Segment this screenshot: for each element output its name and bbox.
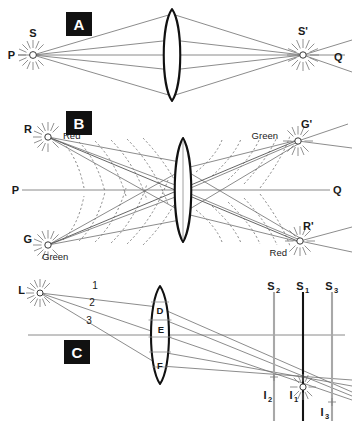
panel-c-image-label-I3: I 3 [320,406,329,421]
panel-a-lens [164,9,181,101]
panel-b-badge: B [66,111,92,135]
optics-diagram-svg: P S S' Q A [0,0,357,421]
panel-b-wavefronts-red-incident [63,138,188,208]
panel-c-image-blur-I3 [328,398,336,406]
panel-c-lens-zone-label-F: F [157,360,163,371]
panel-a-badge: A [66,12,92,36]
panel-c-incident-rays [40,293,161,366]
panel-c-image-label-I2: I 2 [263,389,272,404]
panel-b-red-cone-rays [48,137,180,208]
panel-c-ray-label-1: 1 [92,280,98,291]
panel-c-screen-label-S1-base: S [296,280,303,292]
panel-a-badge-label: A [74,16,85,33]
panel-b-label-green-right: Green [252,130,278,141]
panel-c-screen-label-S3-base: S [325,280,332,292]
panel-c-ray-1-incident [40,293,158,307]
panel-b-image-star-Gprime [283,126,313,156]
panel-b: R Red P G Green Green G' Q Red R' B [12,111,352,262]
panel-c-ray-1-refracted [158,307,352,392]
panel-a-diverging-rays [303,40,352,72]
panel-c-image-label-I3-base: I [320,406,323,418]
panel-b-green-cone-rays [48,174,180,245]
panel-c-refracted-rays [158,307,352,400]
panel-a-label-Q: Q [334,51,343,63]
panel-c-image-label-I1-sub: 1 [294,395,298,404]
panel-c-ray-label-2: 2 [89,297,95,308]
panel-c-image-label-I1: I 1 [289,389,298,404]
panel-c-ray-2-refracted [160,334,352,400]
panel-b-badge-label: B [74,115,85,132]
panel-c-badge-label: C [72,344,83,361]
panel-b-label-R: R [24,123,32,135]
panel-c-ray-label-3: 3 [86,315,92,326]
panel-c-image-label-I1-base: I [289,389,292,401]
panel-c: D E F [18,279,352,421]
panel-c-screen-label-S2-sub: 2 [276,286,280,295]
panel-b-label-Gprime: G' [301,118,313,130]
panel-a-label-P: P [8,49,15,61]
panel-a-label-S: S [29,27,36,39]
panel-b-label-Rprime: R' [303,220,314,232]
panel-b-extension-rays [298,124,352,252]
panel-c-ray-2-incident [40,293,160,334]
panel-a-label-Sprime: S' [298,25,308,37]
panel-c-label-L: L [18,284,25,296]
panel-c-badge: C [64,340,90,364]
panel-c-image-label-I3-sub: 3 [325,412,329,421]
panel-c-lens-zone-label-D: D [157,305,164,316]
panel-c-lens-zone-label-E: E [158,324,164,335]
panel-b-lens [175,138,192,242]
panel-b-label-Q: Q [333,184,342,196]
panel-b-label-G: G [23,233,32,245]
panel-b-label-red-right: Red [270,247,287,258]
panel-c-image-label-I2-base: I [263,389,266,401]
panel-c-image-label-I2-sub: 2 [268,395,272,404]
panel-b-source-star-R [33,122,59,152]
panel-a-image-star-Sprime [287,39,319,71]
panel-b-label-green-left: Green [42,251,68,262]
panel-b-wavefronts-green-incident [63,176,188,245]
panel-b-label-P: P [12,184,19,196]
panel-c-screen-label-S3-sub: 3 [334,286,338,295]
panel-c-screen-label-S2-base: S [267,280,274,292]
panel-c-screen-label-S1-sub: 1 [305,286,309,295]
panel-c-ray-3-incident [40,293,161,366]
panel-c-ray-3-refracted [161,366,352,380]
optics-figure-root: P S S' Q A [0,0,357,421]
panel-c-source-star-L [26,279,50,307]
panel-a: P S S' Q A [8,9,352,101]
